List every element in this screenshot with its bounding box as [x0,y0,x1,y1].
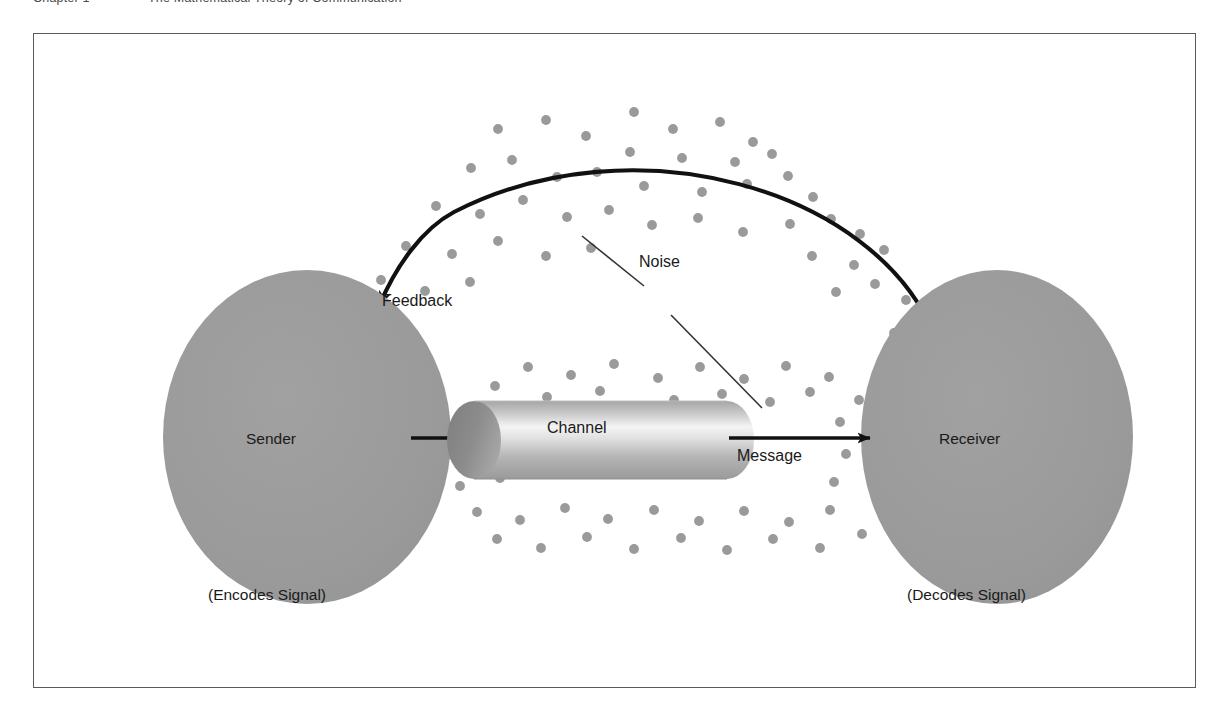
receiver-sublabel: (Decodes Signal) [907,586,1026,604]
running-header: Chapter 1 The Mathematical Theory of Com… [0,0,1228,11]
feedback-edge-label: Feedback [382,292,452,310]
figure-frame: Sender Receiver Channel Feedback Noise M… [33,33,1196,688]
running-header-chapter-title: The Mathematical Theory of Communication [148,0,402,5]
sender-node-label: Sender [246,430,296,448]
diagram-canvas: Sender Receiver Channel Feedback Noise M… [34,34,1197,689]
document-page: Chapter 1 The Mathematical Theory of Com… [0,0,1228,719]
channel-node-label: Channel [547,419,607,437]
sender-sublabel: (Encodes Signal) [208,586,326,604]
noise-leader-line-lower [671,315,762,408]
noise-annotation-label: Noise [639,253,680,271]
channel-cylinder-shape[interactable] [447,401,754,479]
running-header-chapter-number: Chapter 1 [33,0,90,5]
receiver-node-label: Receiver [939,430,1000,448]
noise-leader-line-upper [582,236,644,286]
message-edge-label: Message [737,447,802,465]
sender-node-shape[interactable] [163,270,451,604]
